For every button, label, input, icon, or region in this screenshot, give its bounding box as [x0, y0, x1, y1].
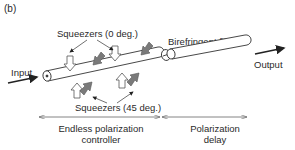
output-arrow [255, 48, 284, 54]
squeezers-0-bottom [71, 73, 128, 98]
input-arrow [8, 77, 37, 83]
birefringent-fiber [166, 35, 251, 60]
fiber-diagram [0, 0, 295, 150]
